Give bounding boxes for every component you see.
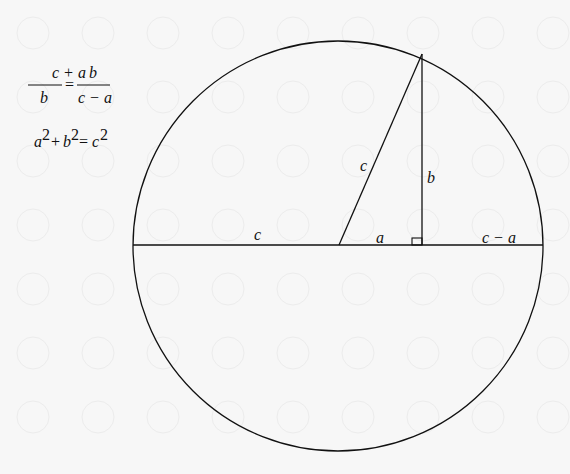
equation-pythagorean: a 2 + b 2 = c 2	[34, 126, 108, 150]
eq2-plus: +	[51, 133, 60, 150]
eq2-b-exponent: 2	[71, 126, 79, 143]
label-base: a	[376, 229, 384, 246]
eq2-equals: =	[79, 133, 88, 150]
label-height: b	[427, 169, 435, 186]
label-left-radius: c	[254, 226, 261, 243]
eq2-c-exponent: 2	[100, 126, 108, 143]
label-right-segment: c − a	[482, 229, 516, 246]
eq1-denominator-right: c − a	[78, 89, 112, 106]
geometry-diagram: c + a b = b c − a a 2 + b 2 = c 2 c c b …	[0, 0, 570, 474]
equation-ratio: c + a b = b c − a	[28, 64, 112, 106]
eq1-numerator-right: b	[89, 64, 97, 81]
background-pattern	[17, 17, 569, 433]
eq2-a: a	[34, 133, 42, 150]
right-angle-marker	[412, 238, 422, 245]
eq1-denominator-left: b	[40, 89, 48, 106]
eq2-a-exponent: 2	[42, 126, 50, 143]
eq2-c: c	[92, 133, 99, 150]
eq2-b: b	[63, 133, 71, 150]
eq1-equals: =	[65, 76, 74, 93]
circle	[133, 41, 543, 451]
label-hypotenuse: c	[360, 157, 367, 174]
